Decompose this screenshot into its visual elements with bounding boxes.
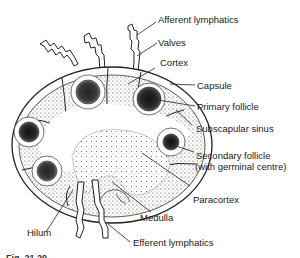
label-paracortex: Paracortex [193,194,239,205]
label-secondary-follicle-line1: Secondary follicle [196,150,270,161]
leader-efferent-lymphatics [108,224,130,242]
afferent-vessel-left [40,40,78,66]
secondary-follicle-core [163,134,179,150]
figure-caption-clipped: Fig. 21.20 [6,251,47,258]
afferent-lymphatic-vessels [40,24,140,72]
follicle-bottom-left-core [37,161,57,181]
afferent-vessel-right [128,24,140,72]
label-secondary-follicle-line2: (with germinal centre) [195,161,286,172]
label-primary-follicle: Primary follicle [197,101,259,112]
label-subscapular-sinus: Subscapular sinus [196,123,274,134]
leader-valves [137,43,157,56]
label-afferent-lymphatics: Afferent lymphatics [158,14,239,25]
primary-follicle-core [137,87,161,111]
label-cortex: Cortex [160,57,188,68]
label-efferent-lymphatics: Efferent lymphatics [133,237,214,248]
label-capsule: Capsule [197,80,232,91]
label-valves: Valves [158,37,186,48]
leader-afferent-lymphatics [137,22,156,35]
afferent-vessel-middle [84,33,105,71]
follicle-left-core [19,122,39,142]
follicle-top-left-core [76,80,100,104]
label-medulla: Medulla [140,212,173,223]
label-hilum: Hilum [27,227,51,238]
